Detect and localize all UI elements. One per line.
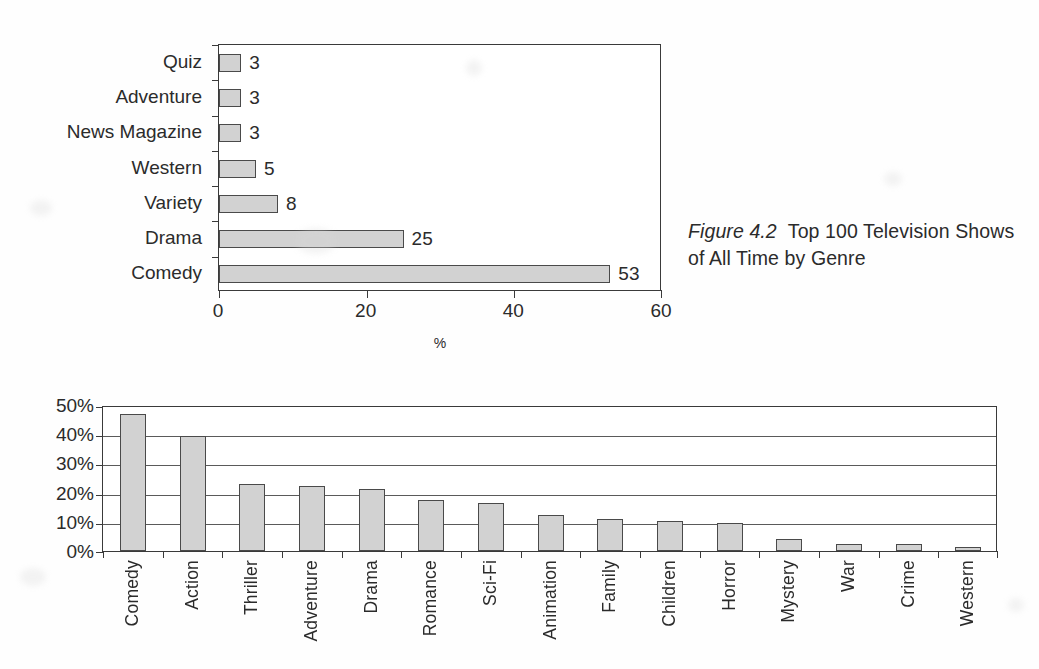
bottom-chart-bar [776, 539, 802, 551]
bottom-chart-x-tick [222, 551, 223, 558]
bottom-chart-y-tick [96, 465, 103, 466]
bottom-chart-category-label: Thriller [241, 560, 262, 615]
bottom-chart-y-tick [96, 436, 103, 437]
top-chart-axis-tick [212, 221, 219, 222]
bottom-chart-x-tick [700, 551, 701, 558]
bottom-chart-x-tick [103, 551, 104, 558]
chart-movie-genre-preferences: 0%10%20%30%40%50% ComedyActionThrillerAd… [0, 390, 1039, 669]
top-chart-bar [219, 195, 278, 213]
bottom-chart-x-tick [640, 551, 641, 558]
top-chart-axis-tick [212, 45, 219, 46]
bottom-chart-y-label: 40% [56, 424, 94, 446]
top-chart-axis-tick [212, 257, 219, 258]
top-chart-axis-tick [212, 116, 219, 117]
bottom-chart-bar [359, 489, 385, 551]
top-chart-x-label: 60 [650, 300, 671, 322]
bottom-chart-x-tick [997, 551, 998, 558]
bottom-chart-plot-area [102, 406, 997, 552]
figure-page: ComedyDramaVarietyWesternNews MagazineAd… [0, 0, 1039, 669]
bottom-chart-x-tick [879, 551, 880, 558]
top-chart-x-tick [219, 290, 220, 298]
top-chart-x-label: 0 [213, 300, 224, 322]
top-chart-axis-tick [212, 80, 219, 81]
bottom-chart-bar [597, 519, 623, 551]
bottom-chart-y-tick [96, 524, 103, 525]
top-chart-category-label: Variety [144, 192, 202, 214]
bottom-chart-bar [717, 523, 743, 551]
bottom-chart-bar [836, 544, 862, 551]
top-chart-plot-area: 532585333 [218, 44, 661, 291]
bottom-chart-x-tick [342, 551, 343, 558]
bottom-chart-bar [239, 484, 265, 551]
bottom-chart-gridline [103, 495, 996, 496]
bottom-chart-category-label: Crime [898, 560, 919, 608]
bottom-chart-category-label: Comedy [122, 560, 143, 626]
bottom-chart-x-tick [282, 551, 283, 558]
bottom-chart-y-label: 20% [56, 483, 94, 505]
bottom-chart-category-label: Adventure [301, 560, 322, 642]
top-chart-x-tick [514, 290, 515, 298]
bottom-chart-category-label: Action [182, 560, 203, 610]
top-chart-bar-value: 8 [286, 193, 297, 215]
bottom-chart-bar [657, 521, 683, 551]
figure-caption: Figure 4.2Top 100 Television Shows of Al… [688, 218, 1018, 272]
bottom-chart-y-label: 30% [56, 453, 94, 475]
bottom-chart-category-label: Mystery [778, 560, 799, 623]
bottom-chart-y-tick [96, 552, 103, 553]
top-chart-x-tick [661, 290, 662, 298]
bottom-chart-bar [418, 500, 444, 551]
bottom-chart-gridline [103, 436, 996, 437]
top-chart-bar-value: 3 [249, 52, 260, 74]
bottom-chart-y-tick [96, 495, 103, 496]
bottom-chart-bar [180, 436, 206, 551]
bottom-chart-x-tick [401, 551, 402, 558]
top-chart-bar-value: 3 [249, 122, 260, 144]
bottom-chart-category-label: Children [659, 560, 680, 627]
bottom-chart-category-label: War [838, 560, 859, 592]
bottom-chart-category-label: Sci-Fi [480, 560, 501, 606]
bottom-chart-category-label: Drama [361, 560, 382, 614]
bottom-chart-y-tick [96, 407, 103, 408]
top-chart-bar [219, 54, 241, 72]
bottom-chart-y-label: 0% [67, 541, 94, 563]
top-chart-bar-value: 25 [412, 228, 433, 250]
top-chart-axis-title: % [434, 335, 446, 351]
top-chart-category-label: Western [132, 157, 202, 179]
bottom-chart-x-tick [759, 551, 760, 558]
bottom-chart-x-tick [580, 551, 581, 558]
top-chart-bar-value: 5 [264, 158, 275, 180]
bottom-chart-y-label: 50% [56, 395, 94, 417]
top-chart-axis-tick [212, 151, 219, 152]
top-chart-bar [219, 230, 404, 248]
bottom-chart-category-label: Western [957, 560, 978, 626]
top-chart-category-label: Comedy [131, 262, 202, 284]
bottom-chart-x-tick [163, 551, 164, 558]
bottom-chart-category-label: Horror [719, 560, 740, 611]
scan-smudge [884, 172, 902, 186]
top-chart-x-label: 20 [355, 300, 376, 322]
top-chart-axis-tick [212, 186, 219, 187]
bottom-chart-gridline [103, 465, 996, 466]
top-chart-bar [219, 89, 241, 107]
figure-number: Figure 4.2 [688, 220, 777, 242]
bottom-chart-bar [896, 544, 922, 551]
bottom-chart-bar [478, 503, 504, 551]
bottom-chart-category-label: Romance [420, 560, 441, 636]
bottom-chart-bar [299, 486, 325, 551]
bottom-chart-bar [538, 515, 564, 552]
top-chart-category-label: Quiz [163, 51, 202, 73]
top-chart-category-axis: ComedyDramaVarietyWesternNews MagazineAd… [10, 44, 210, 291]
bottom-chart-value-axis: 0%10%20%30%40%50% [20, 406, 94, 552]
bottom-chart-y-label: 10% [56, 512, 94, 534]
top-chart-bar [219, 124, 241, 142]
bottom-chart-x-tick [461, 551, 462, 558]
top-chart-bar [219, 160, 256, 178]
bottom-chart-category-label: Family [599, 560, 620, 613]
top-chart-bar [219, 265, 610, 283]
bottom-chart-bar [120, 414, 146, 551]
top-chart-category-label: Adventure [115, 86, 202, 108]
bottom-chart-x-tick [521, 551, 522, 558]
top-chart-bar-value: 3 [249, 87, 260, 109]
bottom-chart-x-tick [819, 551, 820, 558]
bottom-chart-x-tick [938, 551, 939, 558]
